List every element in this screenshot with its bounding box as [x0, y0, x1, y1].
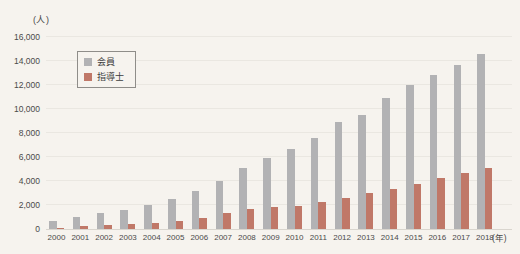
bar-group-2012 — [335, 122, 350, 229]
bar-指導士-2007 — [223, 213, 231, 229]
x-tick-label: 2013 — [354, 233, 378, 243]
bar-指導士-2005 — [176, 221, 184, 229]
bar-指導士-2014 — [390, 189, 398, 229]
bar-group-2009 — [263, 158, 278, 229]
bar-会員-2004 — [144, 205, 152, 229]
bar-指導士-2003 — [128, 224, 136, 229]
y-tick-label: 10,000 — [0, 104, 40, 114]
x-tick-label: 2015 — [402, 233, 426, 243]
gridline — [46, 36, 512, 37]
y-tick-label: 12,000 — [0, 80, 40, 90]
bar-group-2016 — [430, 75, 445, 229]
legend-item-会員: 会員 — [84, 57, 124, 67]
bar-group-2010 — [287, 149, 302, 229]
x-tick-label: 2002 — [92, 233, 116, 243]
legend-swatch-icon — [84, 73, 92, 81]
x-tick-label: 2009 — [259, 233, 283, 243]
x-tick-label: 2003 — [116, 233, 140, 243]
bar-指導士-2010 — [295, 206, 303, 229]
bar-会員-2003 — [120, 210, 128, 229]
bar-指導士-2006 — [199, 218, 207, 229]
y-tick-label: 8,000 — [0, 128, 40, 138]
bar-会員-2013 — [358, 115, 366, 229]
y-axis-unit-label: (人) — [33, 13, 50, 26]
bar-group-2015 — [406, 85, 421, 229]
bar-指導士-2002 — [104, 225, 112, 229]
bar-会員-2010 — [287, 149, 295, 229]
legend-label: 指導士 — [97, 72, 124, 82]
bar-指導士-2009 — [271, 207, 279, 229]
bar-group-2003 — [120, 210, 135, 229]
bar-指導士-2001 — [80, 226, 88, 229]
bar-指導士-2000 — [57, 228, 65, 229]
y-tick-label: 6,000 — [0, 152, 40, 162]
x-tick-label: 2006 — [187, 233, 211, 243]
bar-group-2008 — [239, 168, 254, 229]
bar-会員-2016 — [430, 75, 438, 229]
bar-指導士-2004 — [152, 223, 160, 229]
bar-会員-2007 — [216, 181, 224, 229]
bar-会員-2018 — [477, 54, 485, 229]
bar-会員-2005 — [168, 199, 176, 229]
x-tick-label: 2014 — [378, 233, 402, 243]
x-tick-label: 2016 — [425, 233, 449, 243]
y-tick-label: 16,000 — [0, 32, 40, 42]
x-tick-label: 2012 — [330, 233, 354, 243]
bar-指導士-2017 — [461, 173, 469, 229]
bar-会員-2008 — [239, 168, 247, 229]
y-tick-label: 14,000 — [0, 56, 40, 66]
bar-会員-2001 — [73, 217, 81, 229]
legend: 会員指導士 — [77, 51, 136, 88]
x-tick-label: 2017 — [449, 233, 473, 243]
bar-group-2017 — [454, 65, 469, 229]
y-tick-label: 4,000 — [0, 176, 40, 186]
x-tick-label: 2000 — [45, 233, 69, 243]
bar-group-2001 — [73, 217, 88, 229]
bar-group-2013 — [358, 115, 373, 229]
x-tick-label: 2001 — [68, 233, 92, 243]
x-tick-label: 2010 — [283, 233, 307, 243]
bar-group-2000 — [49, 221, 64, 229]
x-tick-label: 2007 — [211, 233, 235, 243]
bar-group-2004 — [144, 205, 159, 229]
bar-指導士-2018 — [485, 168, 493, 229]
bar-会員-2015 — [406, 85, 414, 229]
y-tick-label: 0 — [0, 224, 40, 234]
bar-指導士-2016 — [437, 178, 445, 229]
bar-会員-2006 — [192, 191, 200, 229]
bar-group-2006 — [192, 191, 207, 229]
x-tick-label: 2008 — [235, 233, 259, 243]
y-tick-label: 2,000 — [0, 200, 40, 210]
bar-会員-2002 — [97, 213, 105, 229]
bar-会員-2012 — [335, 122, 343, 229]
bar-group-2014 — [382, 98, 397, 229]
bar-chart-figure: (人) 02,0004,0006,0008,00010,00012,00014,… — [0, 0, 520, 254]
x-tick-label: 2011 — [306, 233, 330, 243]
bar-指導士-2012 — [342, 198, 350, 229]
bar-group-2018 — [477, 54, 492, 229]
bar-group-2005 — [168, 199, 183, 229]
legend-label: 会員 — [97, 57, 115, 67]
bar-会員-2009 — [263, 158, 271, 229]
x-axis-unit-label: (年) — [492, 233, 507, 243]
legend-swatch-icon — [84, 58, 92, 66]
bar-指導士-2015 — [414, 184, 422, 229]
bar-会員-2011 — [311, 138, 319, 229]
x-tick-label: 2005 — [164, 233, 188, 243]
bar-会員-2000 — [49, 221, 57, 229]
bar-group-2007 — [216, 181, 231, 229]
bar-group-2011 — [311, 138, 326, 229]
legend-item-指導士: 指導士 — [84, 72, 124, 82]
x-tick-label: 2004 — [140, 233, 164, 243]
bar-指導士-2008 — [247, 209, 255, 229]
bar-会員-2014 — [382, 98, 390, 229]
bar-会員-2017 — [454, 65, 462, 229]
bar-指導士-2013 — [366, 193, 374, 229]
bar-group-2002 — [97, 213, 112, 229]
bar-指導士-2011 — [318, 202, 326, 229]
